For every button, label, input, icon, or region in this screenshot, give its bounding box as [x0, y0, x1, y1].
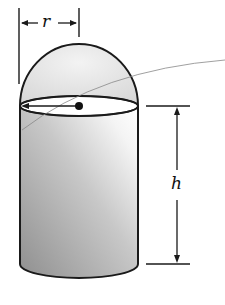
h-arrowhead-bottom	[174, 255, 180, 263]
capsule-figure	[0, 0, 225, 305]
h-arrowhead-top	[174, 107, 180, 115]
r-arrowhead-left	[21, 20, 28, 26]
capsule-diagram: r h	[0, 0, 225, 305]
center-dot	[75, 102, 83, 110]
radius-label: r	[42, 11, 50, 31]
cylinder-body	[20, 106, 138, 278]
height-label: h	[171, 173, 182, 193]
r-arrowhead-right	[70, 20, 77, 26]
